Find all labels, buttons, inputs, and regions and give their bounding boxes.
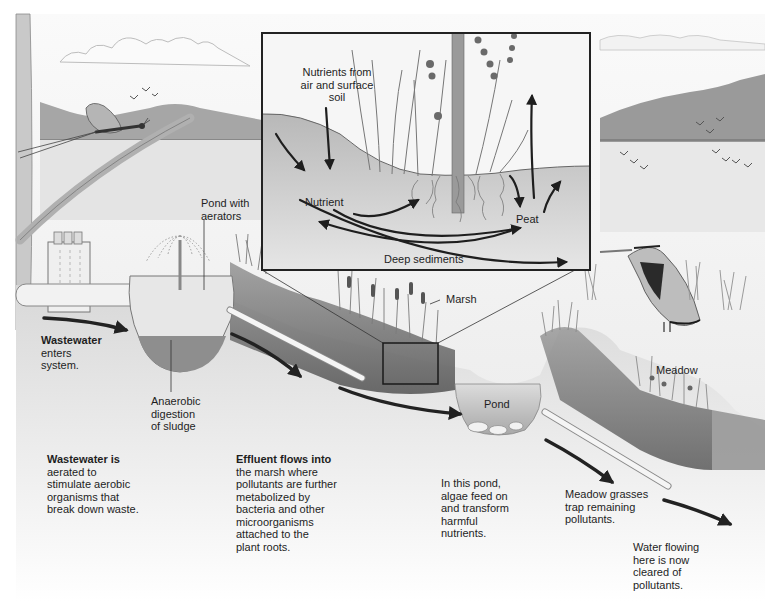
label-line: Nutrients from: [282, 66, 392, 79]
caption-effluent: Effluent flows into the marsh where poll…: [236, 453, 337, 553]
caption-line: metabolized by: [236, 491, 337, 504]
inlet-pipe-icon: [16, 284, 140, 306]
caption-line: here is now: [633, 554, 699, 567]
caption-line: pollutants.: [565, 513, 648, 526]
label-line: Anaerobic: [151, 395, 201, 408]
caption-line: organisms that: [47, 491, 139, 504]
label-line: air and surface: [282, 79, 392, 92]
caption-line: and transform: [441, 502, 509, 515]
caption-line: bacteria and other: [236, 503, 337, 516]
label-line: of sludge: [151, 420, 201, 433]
caption-pond: In this pond, algae feed on and transfor…: [441, 477, 509, 540]
caption-line: the marsh where: [236, 466, 337, 479]
caption-line: trap remaining: [565, 501, 648, 514]
marsh-label: Marsh: [446, 293, 477, 306]
caption-line: break down waste.: [47, 503, 139, 516]
label-line: aerators: [201, 210, 249, 223]
caption-bold: Effluent flows into: [236, 453, 337, 466]
caption-aeration: Wastewater is aerated to stimulate aerob…: [47, 453, 139, 516]
pond-with-aerators-label: Pond with aerators: [201, 197, 249, 222]
caption-cleared: Water flowing here is now cleared of pol…: [633, 541, 699, 591]
meadow-label: Meadow: [656, 364, 698, 377]
caption-line: In this pond,: [441, 477, 509, 490]
caption-line: pollutants are further: [236, 478, 337, 491]
label-bold: Wastewater: [41, 334, 102, 347]
caption-meadow: Meadow grasses trap remaining pollutants…: [565, 488, 648, 526]
caption-line: attached to the: [236, 528, 337, 541]
caption-line: algae feed on: [441, 490, 509, 503]
inset-nutrients-from-air-label: Nutrients from air and surface soil: [282, 66, 392, 104]
caption-line: aerated to: [47, 466, 139, 479]
caption-line: Water flowing: [633, 541, 699, 554]
caption-line: Meadow grasses: [565, 488, 648, 501]
caption-line: plant roots.: [236, 541, 337, 554]
pond-label: Pond: [484, 398, 510, 411]
label-line: soil: [282, 91, 392, 104]
caption-line: cleared of: [633, 566, 699, 579]
label-line: Pond with: [201, 197, 249, 210]
label-line: digestion: [151, 408, 201, 421]
inset-nutrient-label: Nutrient: [305, 196, 344, 209]
caption-line: nutrients.: [441, 527, 509, 540]
caption-line: microorganisms: [236, 516, 337, 529]
label-line: system.: [41, 359, 102, 372]
caption-line: pollutants.: [633, 579, 699, 592]
inset-deep-sediments-label: Deep sediments: [384, 253, 464, 266]
anaerobic-digestion-label: Anaerobic digestion of sludge: [151, 395, 201, 433]
caption-line: stimulate aerobic: [47, 478, 139, 491]
label-line: enters: [41, 347, 102, 360]
inset-peat-label: Peat: [516, 213, 539, 226]
wastewater-enters-label: Wastewater enters system.: [41, 334, 102, 372]
caption-bold: Wastewater is: [47, 453, 139, 466]
caption-line: harmful: [441, 515, 509, 528]
